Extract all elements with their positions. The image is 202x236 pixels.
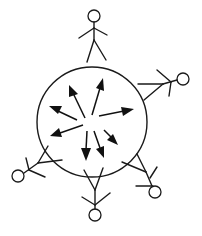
arrow-right <box>99 107 134 116</box>
arrow-down-right-short <box>104 130 118 145</box>
arrow-up-left <box>69 85 85 118</box>
diagram <box>0 0 202 236</box>
stick-figure-lower-right <box>122 154 161 198</box>
stick-figure-left <box>12 146 62 182</box>
arrow-down <box>81 131 91 161</box>
arrow-left <box>49 106 77 120</box>
arrow-down-left <box>50 125 83 137</box>
stick-figure-top <box>79 10 107 62</box>
stick-figure-right <box>138 70 189 100</box>
arrow-up-right <box>92 78 104 115</box>
arrow-down-right <box>94 131 104 158</box>
arrows <box>49 78 134 161</box>
